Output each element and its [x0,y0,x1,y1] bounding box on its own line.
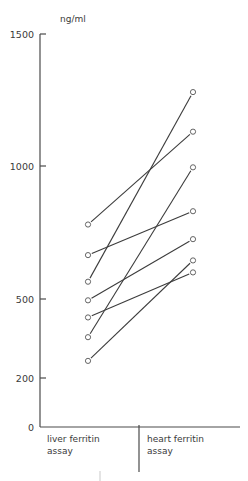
data-point-liver [85,335,90,340]
data-point-liver [85,358,90,363]
data-point-liver [85,315,90,320]
series-line [91,263,190,358]
data-point-heart [190,165,195,170]
data-point-liver [85,279,90,284]
series-line [90,171,191,334]
data-point-heart [190,209,195,214]
data-point-heart [190,237,195,242]
y-tick-label: 500 [16,294,34,305]
data-point-liver [85,253,90,258]
data-point-heart [190,270,195,275]
unit-label: ng/ml [60,14,86,24]
ferritin-chart: ng/ml 020050010001500 liver ferritinassa… [0,0,248,481]
series-points [85,89,195,363]
heart-category-label: heart ferritin [147,434,204,444]
y-tick-label: 1500 [10,29,34,40]
liver-category-label: assay [47,446,73,456]
y-tick-label: 200 [16,373,34,384]
data-point-liver [85,222,90,227]
category-labels: liver ferritinassayheart ferritinassay [47,434,204,456]
series-line [92,274,189,316]
series-line [91,134,190,221]
data-point-heart [190,89,195,94]
liver-category-label: liver ferritin [47,434,100,444]
heart-category-label: assay [147,446,173,456]
series-line [90,96,191,278]
y-tick-label: 0 [28,422,34,433]
series-lines [90,96,191,358]
y-axis: 020050010001500 [10,29,46,433]
data-point-heart [190,129,195,134]
data-point-liver [85,298,90,303]
data-point-heart [190,258,195,263]
y-tick-label: 1000 [10,161,34,172]
